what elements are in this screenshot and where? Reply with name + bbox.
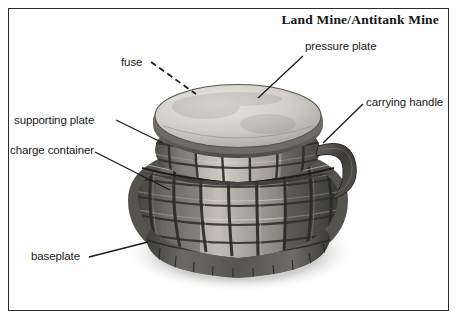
label-supporting-plate: supporting plate: [14, 114, 94, 126]
label-pressure-plate: pressure plate: [305, 40, 376, 52]
label-carrying-handle: carrying handle: [366, 96, 443, 108]
page-title: Land Mine/Antitank Mine: [281, 12, 439, 28]
diagram-frame: [8, 8, 449, 311]
label-fuse: fuse: [121, 56, 142, 68]
label-baseplate: baseplate: [31, 250, 80, 262]
diagram-page: Land Mine/Antitank Mine pressure plate f…: [0, 0, 457, 321]
label-charge-container: charge container: [10, 144, 94, 156]
